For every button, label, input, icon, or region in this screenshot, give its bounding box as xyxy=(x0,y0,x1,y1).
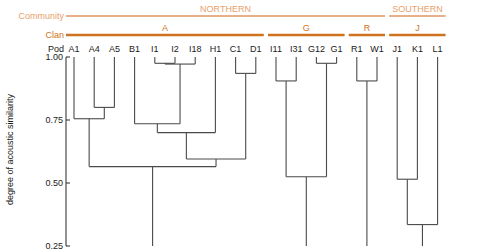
pod-label-A1: A1 xyxy=(68,44,79,54)
y-tick-label: 0.75 xyxy=(45,115,63,125)
pod-label-A4: A4 xyxy=(89,44,100,54)
community-row-label: Community xyxy=(18,11,64,21)
clan-label: J xyxy=(415,23,420,33)
pod-label-W1: W1 xyxy=(370,44,384,54)
dendrogram-tree xyxy=(74,57,438,246)
community-label: NORTHERN xyxy=(200,4,251,14)
pod-label-C1: C1 xyxy=(230,44,242,54)
pod-label-J1: J1 xyxy=(392,44,402,54)
community-label: SOUTHERN xyxy=(392,4,443,14)
dendrogram-figure: CommunityClanNORTHERNSOUTHERNAGRJ 1.000.… xyxy=(0,0,488,252)
clan-label: R xyxy=(364,23,371,33)
pod-label-G1: G1 xyxy=(331,44,343,54)
header-rows: CommunityClanNORTHERNSOUTHERNAGRJ xyxy=(18,4,445,40)
pod-label-A5: A5 xyxy=(109,44,120,54)
pod-label-R1: R1 xyxy=(351,44,363,54)
y-axis: 1.000.750.500.25 xyxy=(45,52,70,251)
dendrogram-svg: CommunityClanNORTHERNSOUTHERNAGRJ 1.000.… xyxy=(0,0,488,252)
pod-labels: PodA1A4A5B1I1I2I18H1C1D1I11I31G12G1R1W1J… xyxy=(48,44,443,54)
pod-label-I31: I31 xyxy=(290,44,303,54)
y-axis-label: degree of acoustic similarity xyxy=(5,93,15,205)
pod-label-I1: I1 xyxy=(151,44,159,54)
pod-row-label: Pod xyxy=(48,44,64,54)
pod-label-L1: L1 xyxy=(433,44,443,54)
pod-label-B1: B1 xyxy=(129,44,140,54)
clan-row-label: Clan xyxy=(45,30,64,40)
pod-label-D1: D1 xyxy=(250,44,262,54)
clan-label: G xyxy=(303,23,310,33)
y-tick-label: 0.25 xyxy=(45,241,63,251)
y-tick-label: 0.50 xyxy=(45,178,63,188)
pod-label-I11: I11 xyxy=(270,44,282,54)
pod-label-H1: H1 xyxy=(210,44,222,54)
clan-label: A xyxy=(162,23,168,33)
pod-label-I2: I2 xyxy=(171,44,179,54)
pod-label-I18: I18 xyxy=(189,44,202,54)
pod-label-K1: K1 xyxy=(412,44,423,54)
pod-label-G12: G12 xyxy=(308,44,325,54)
